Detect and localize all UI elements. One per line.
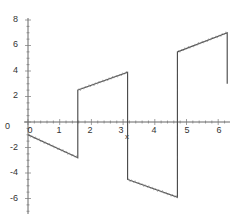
x-tick-label: 3: [118, 125, 123, 135]
x-tick-label: 5: [184, 125, 189, 135]
y-tick-label: 0: [5, 121, 10, 131]
y-tick-label: -6: [10, 193, 18, 203]
y-tick-label: -2: [10, 142, 18, 152]
y-tick-label: 8: [13, 14, 18, 24]
y-tick-label: 4: [13, 65, 18, 75]
data-series: [28, 32, 227, 199]
y-tick-labels: 8 6 4 2 0 -2 -4 -6: [5, 14, 18, 203]
x-tick-label: 4: [151, 125, 156, 135]
x-tick-label: 6: [216, 125, 221, 135]
x-tick-label: 0: [27, 125, 32, 135]
chart-plot: 8 6 4 2 0 -2 -4 -6 0 1 2 3 4 5 6 x: [0, 0, 243, 224]
y-tick-label: 6: [13, 39, 18, 49]
x-tick-label: 1: [56, 125, 61, 135]
x-axis-label: x: [125, 132, 129, 141]
y-tick-label: 2: [13, 90, 18, 100]
x-tick-label: 2: [87, 125, 92, 135]
y-tick-label: -4: [10, 167, 18, 177]
